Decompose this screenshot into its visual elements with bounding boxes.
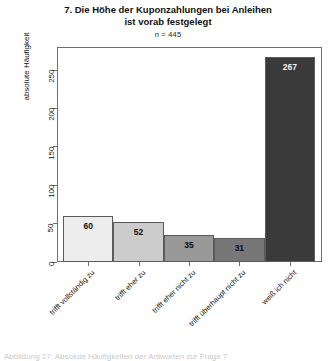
- y-axis-tick-label: 0: [47, 262, 56, 266]
- x-axis-tick-mark: [189, 262, 190, 266]
- bar[interactable]: 52: [113, 222, 163, 262]
- bar-value-label: 35: [165, 240, 213, 250]
- title-line-1: 7. Die Höhe der Kuponzahlungen bei Anlei…: [0, 4, 336, 16]
- y-axis-tick-label: 100: [47, 185, 56, 198]
- bar-value-label: 60: [64, 221, 112, 231]
- bar-value-label: 52: [114, 227, 162, 237]
- y-axis-tick-label: 50: [47, 223, 56, 232]
- x-axis-tick-mark: [290, 262, 291, 266]
- y-axis-tick-label: 150: [47, 146, 56, 159]
- bar[interactable]: 60: [63, 216, 113, 262]
- bar[interactable]: 267: [265, 57, 315, 262]
- figure-caption: Abbildung 17: Absolute Häufigkeiten der …: [4, 352, 334, 361]
- x-axis-tick-mark: [88, 262, 89, 266]
- sample-size-label: n = 445: [0, 30, 336, 39]
- y-axis-tick-label: 250: [47, 70, 56, 83]
- page-title: 7. Die Höhe der Kuponzahlungen bei Anlei…: [0, 4, 336, 28]
- title-line-2: ist vorab festgelegt: [0, 16, 336, 28]
- y-axis-tick-label: 200: [47, 108, 56, 121]
- bar-series: 60523531267: [57, 47, 322, 262]
- bar-value-label: 267: [266, 62, 314, 72]
- x-axis-tick-mark: [239, 262, 240, 266]
- y-axis-title: absolute Häufigkeit: [22, 0, 31, 137]
- x-axis-tick-mark: [139, 262, 140, 266]
- bar[interactable]: 31: [214, 238, 264, 262]
- bar-value-label: 31: [215, 243, 263, 253]
- bar[interactable]: 35: [164, 235, 214, 262]
